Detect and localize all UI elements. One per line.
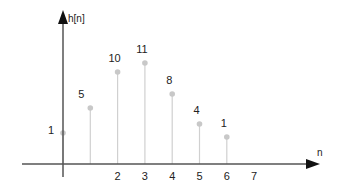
x-tick-label: 7 xyxy=(251,170,257,182)
stem-marker xyxy=(224,134,230,140)
stems xyxy=(60,60,229,164)
x-tick-labels: 234567 xyxy=(115,170,258,182)
stem-marker xyxy=(88,105,94,111)
x-tick-label: 3 xyxy=(142,170,148,182)
stem-marker xyxy=(197,121,203,127)
stem-plot: h[n] n 151011841 234567 xyxy=(0,0,351,186)
y-axis-arrow-icon xyxy=(58,10,68,24)
value-label: 10 xyxy=(108,52,120,64)
x-axis-label: n xyxy=(317,147,323,158)
value-label: 4 xyxy=(193,104,199,116)
x-tick-label: 2 xyxy=(115,170,121,182)
value-label: 5 xyxy=(78,88,84,100)
value-label: 1 xyxy=(48,124,54,136)
x-axis-arrow-icon xyxy=(306,159,320,169)
stem-marker xyxy=(115,69,121,75)
value-label: 8 xyxy=(166,74,172,86)
value-label: 1 xyxy=(221,117,227,129)
x-tick-label: 5 xyxy=(196,170,202,182)
x-tick-label: 4 xyxy=(169,170,175,182)
value-label: 11 xyxy=(136,43,147,55)
x-tick-label: 6 xyxy=(224,170,230,182)
y-axis-label: h[n] xyxy=(68,13,85,24)
stem-marker xyxy=(169,91,175,97)
stem-marker xyxy=(142,60,148,66)
